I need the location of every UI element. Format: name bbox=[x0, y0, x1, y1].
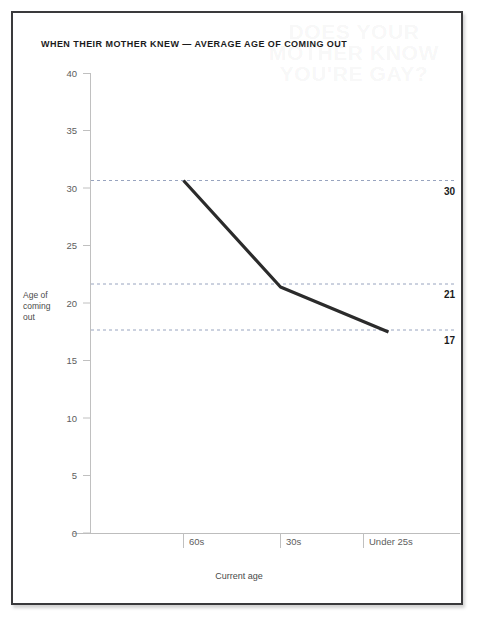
y-tick-label-30: 30 bbox=[51, 183, 77, 194]
y-axis-title: Age of coming out bbox=[23, 290, 75, 323]
x-axis-title: Current age bbox=[13, 571, 465, 581]
y-axis-title-line-3: out bbox=[23, 312, 75, 323]
y-tick-label-0: 0 bbox=[51, 528, 77, 539]
y-tick-label-40: 40 bbox=[51, 68, 77, 79]
y-tick-label-5: 5 bbox=[51, 470, 77, 481]
value-label-21: 21 bbox=[415, 289, 455, 300]
guide-lines bbox=[91, 181, 457, 331]
y-tick-label-10: 10 bbox=[51, 413, 77, 424]
y-tick-label-15: 15 bbox=[51, 355, 77, 366]
y-axis-title-line-1: Age of bbox=[23, 290, 75, 301]
chart-plot-area: 40 35 30 25 20 15 10 5 0 60s 30s Under 2… bbox=[13, 13, 465, 607]
x-tick-label-60s: 60s bbox=[189, 536, 204, 547]
value-label-17: 17 bbox=[415, 335, 455, 346]
x-axis-ticks bbox=[184, 533, 364, 548]
x-tick-label-30s: 30s bbox=[286, 536, 301, 547]
y-tick-label-35: 35 bbox=[51, 125, 77, 136]
page-frame: DOES YOUR MOTHER KNOW YOU'RE GAY? WHEN T… bbox=[11, 11, 463, 605]
data-line-series bbox=[184, 181, 389, 333]
chart-svg bbox=[13, 13, 465, 607]
y-tick-label-25: 25 bbox=[51, 240, 77, 251]
x-tick-label-under-25s: Under 25s bbox=[369, 536, 413, 547]
y-axis-ticks bbox=[83, 74, 91, 534]
y-axis-title-line-2: coming bbox=[23, 301, 75, 312]
value-label-30: 30 bbox=[415, 186, 455, 197]
